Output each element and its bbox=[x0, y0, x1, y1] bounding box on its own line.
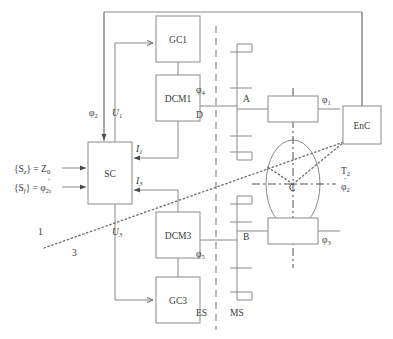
signal-i3-sub: 3 bbox=[138, 180, 143, 187]
input-sz-brace: {S bbox=[14, 164, 24, 174]
block-gc3-label: GC3 bbox=[169, 296, 187, 306]
label-1: 1 bbox=[38, 227, 43, 237]
signal-label-u3: U3 bbox=[112, 227, 123, 238]
label-d: D bbox=[196, 110, 203, 120]
block-gc1-label: GC1 bbox=[169, 35, 187, 45]
signal-label-phi4-text: φ4 bbox=[196, 85, 205, 96]
label-b: B bbox=[243, 232, 249, 242]
signal-label-i1-text: I1 bbox=[135, 144, 142, 155]
signal-label-phi3: φ3 bbox=[322, 235, 331, 246]
signal-label-i1: I1 bbox=[135, 144, 142, 155]
block-dcm1-label: DCM1 bbox=[165, 94, 192, 104]
signal-label-phi3-text: φ3 bbox=[322, 235, 331, 246]
signal-u1-sub: 1 bbox=[119, 112, 122, 119]
input-sf-brace: {S bbox=[14, 183, 24, 193]
svg-text:{Sf} = φ2r: {Sf} = φ2r bbox=[14, 183, 52, 194]
signal-label-phi1-text: φ1 bbox=[322, 95, 331, 106]
signal-label-i3: I3 bbox=[135, 176, 143, 187]
wire-feedback-top bbox=[104, 12, 362, 142]
label-es: ES bbox=[196, 308, 207, 318]
input-sf-sub2: 2r bbox=[46, 187, 52, 194]
svg-text:{Sz} = Z0: {Sz} = Z0 bbox=[14, 164, 51, 175]
signal-label-phi4: φ4 bbox=[196, 85, 205, 96]
block-gc3[interactable]: GC3 bbox=[156, 277, 200, 323]
signal-t2-sub: 2 bbox=[347, 170, 350, 177]
signal-phi4-sub: 4 bbox=[201, 89, 205, 96]
signal-label-phi2-text: φ2 bbox=[89, 108, 98, 119]
input-sz-mid: } = Z bbox=[26, 164, 47, 174]
input-sf-dot: · bbox=[48, 175, 51, 185]
actuator-block-b[interactable] bbox=[268, 218, 318, 244]
signal-label-phi2: φ2 bbox=[89, 108, 98, 119]
label-ms: MS bbox=[230, 308, 244, 318]
bearing-rail-lower bbox=[230, 196, 252, 300]
signal-label-phi5: φ5 bbox=[196, 249, 205, 260]
block-sc[interactable]: SC bbox=[88, 142, 132, 204]
signal-phi3-sub: 3 bbox=[327, 239, 331, 246]
signal-label-u1: U1 bbox=[112, 108, 122, 119]
diagram-canvas: GC1 DCM1 SC DCM3 GC3 EnC {Sz} = Z0 bbox=[0, 0, 393, 339]
wire-u3-sc-to-gc3 bbox=[115, 204, 153, 300]
signal-label-t2: T2 bbox=[341, 166, 350, 177]
block-sc-label: SC bbox=[104, 169, 116, 179]
signal-label-u1-text: U1 bbox=[112, 108, 122, 119]
signal-label-phi1: φ1 bbox=[322, 95, 331, 106]
block-dcm1[interactable]: DCM1 bbox=[156, 75, 200, 121]
input-sf-mid: } = φ bbox=[26, 183, 47, 193]
signal-phi2-sub: 2 bbox=[94, 112, 97, 119]
wire-u1-sc-to-gc1 bbox=[115, 43, 153, 142]
label-3: 3 bbox=[72, 248, 77, 258]
signal-label-t2-text: T2 bbox=[341, 166, 350, 177]
signal-phi1-sub: 1 bbox=[327, 99, 330, 106]
label-a: A bbox=[243, 94, 250, 104]
label-c: C bbox=[289, 183, 295, 193]
input-label-sf: {Sf} = φ2r · bbox=[14, 175, 52, 194]
block-enc-label: EnC bbox=[354, 121, 371, 131]
block-dcm3[interactable]: DCM3 bbox=[156, 212, 200, 258]
input-label-sz: {Sz} = Z0 bbox=[14, 164, 51, 175]
block-gc1[interactable]: GC1 bbox=[156, 16, 200, 62]
signal-label-u3-text: U3 bbox=[112, 227, 123, 238]
signal-u3-sub: 3 bbox=[118, 231, 123, 238]
block-enc[interactable]: EnC bbox=[343, 106, 381, 144]
signal-phi2d-sub: 2 bbox=[346, 186, 349, 193]
actuator-block-a[interactable] bbox=[268, 96, 318, 122]
block-dcm3-label: DCM3 bbox=[165, 231, 192, 241]
signal-phi5-sub: 5 bbox=[201, 253, 205, 260]
signal-label-phi5-text: φ5 bbox=[196, 249, 205, 260]
signal-i1-sub: 1 bbox=[139, 148, 142, 155]
block-diagram-svg: GC1 DCM1 SC DCM3 GC3 EnC {Sz} = Z0 bbox=[0, 0, 393, 339]
signal-label-i3-text: I3 bbox=[135, 176, 143, 187]
